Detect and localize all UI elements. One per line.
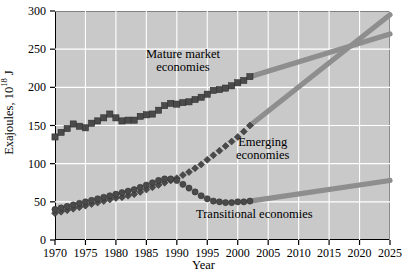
series-label-emerging-line2: economies [236, 149, 289, 162]
series-label-emerging: Emerging economies [236, 136, 289, 162]
y-axis-title: Exajoules, 1018 J [0, 38, 17, 188]
x-axis-title: Year [0, 258, 407, 273]
series-label-transitional-line1: Transitional economies [196, 208, 313, 221]
chart-canvas [0, 0, 407, 279]
series-square [52, 74, 253, 141]
series-label-mature-market-line2: economies [146, 61, 220, 74]
gridlines [55, 11, 390, 240]
y-axis-title-wrap: Exajoules, 1018 J [0, 0, 16, 240]
y-axis-title-suffix: J [2, 70, 16, 78]
series-label-mature-market: Mature market economies [146, 48, 220, 74]
series-markers [52, 74, 254, 217]
energy-consumption-chart: 300250200150100500 197019751980198519901… [0, 0, 407, 279]
series-label-transitional: Transitional economies [196, 208, 313, 221]
projection-lines [250, 15, 390, 201]
y-axis-title-exponent: 18 [0, 78, 9, 87]
y-axis-title-prefix: Exajoules, 10 [2, 87, 16, 155]
